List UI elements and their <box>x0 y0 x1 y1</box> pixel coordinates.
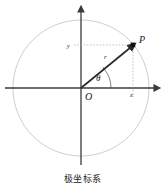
point-p-marker <box>131 43 136 48</box>
y-coordinate-label: y <box>66 43 70 49</box>
origin-label: O <box>85 91 92 102</box>
x-coordinate-label: x <box>129 92 133 98</box>
polar-coordinate-diagram: P O r θ x y <box>0 0 165 190</box>
angle-theta-label: θ <box>96 73 101 83</box>
figure-caption: 极坐标系 <box>0 172 165 185</box>
point-p-label: P <box>138 34 145 45</box>
angle-arc <box>104 69 111 88</box>
polar-coordinate-figure: P O r θ x y 极坐标系 <box>0 0 165 190</box>
radius-label: r <box>104 53 107 61</box>
